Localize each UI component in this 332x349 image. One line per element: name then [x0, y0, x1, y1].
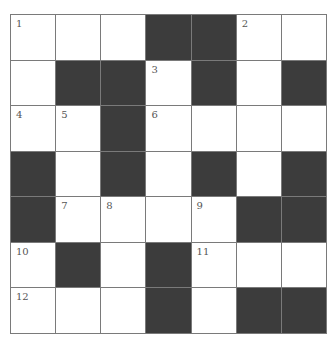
- crossword-cell[interactable]: 7: [56, 197, 100, 242]
- clue-number: 4: [16, 110, 22, 120]
- crossword-cell[interactable]: 8: [101, 197, 145, 242]
- crossword-cell[interactable]: 1: [11, 15, 55, 60]
- clue-number: 10: [16, 247, 29, 257]
- black-square: [192, 152, 236, 197]
- crossword-cell[interactable]: [56, 152, 100, 197]
- crossword-grid: 123456789101112: [10, 14, 327, 334]
- black-square: [192, 61, 236, 106]
- black-square: [282, 152, 326, 197]
- crossword-cell[interactable]: 4: [11, 106, 55, 151]
- crossword-cell[interactable]: [282, 243, 326, 288]
- crossword-cell[interactable]: [237, 61, 281, 106]
- black-square: [101, 61, 145, 106]
- crossword-cell[interactable]: [146, 197, 190, 242]
- crossword-cell[interactable]: [146, 152, 190, 197]
- crossword-cell[interactable]: 5: [56, 106, 100, 151]
- black-square: [101, 152, 145, 197]
- crossword-cell[interactable]: [101, 288, 145, 333]
- black-square: [282, 288, 326, 333]
- crossword-cell[interactable]: 12: [11, 288, 55, 333]
- clue-number: 11: [197, 247, 210, 257]
- crossword-cell[interactable]: 11: [192, 243, 236, 288]
- crossword-cell[interactable]: 10: [11, 243, 55, 288]
- clue-number: 3: [151, 65, 157, 75]
- clue-number: 7: [61, 201, 67, 211]
- crossword-cell[interactable]: 2: [237, 15, 281, 60]
- crossword-cell[interactable]: [282, 106, 326, 151]
- crossword-cell[interactable]: 9: [192, 197, 236, 242]
- black-square: [56, 61, 100, 106]
- crossword-cell[interactable]: [192, 288, 236, 333]
- black-square: [11, 197, 55, 242]
- crossword-cell[interactable]: 6: [146, 106, 190, 151]
- crossword-cell[interactable]: [192, 106, 236, 151]
- black-square: [282, 197, 326, 242]
- black-square: [146, 243, 190, 288]
- black-square: [146, 288, 190, 333]
- crossword-cell[interactable]: [237, 152, 281, 197]
- crossword-cell[interactable]: [101, 243, 145, 288]
- clue-number: 9: [197, 201, 203, 211]
- black-square: [237, 197, 281, 242]
- crossword-cell[interactable]: [56, 288, 100, 333]
- clue-number: 2: [242, 19, 248, 29]
- clue-number: 1: [16, 19, 22, 29]
- black-square: [11, 152, 55, 197]
- crossword-cell[interactable]: [282, 15, 326, 60]
- black-square: [237, 288, 281, 333]
- crossword-cell[interactable]: [11, 61, 55, 106]
- crossword-cell[interactable]: [237, 243, 281, 288]
- black-square: [146, 15, 190, 60]
- crossword-cell[interactable]: [237, 106, 281, 151]
- clue-number: 12: [16, 292, 29, 302]
- clue-number: 8: [106, 201, 112, 211]
- clue-number: 5: [61, 110, 67, 120]
- black-square: [192, 15, 236, 60]
- crossword-cell[interactable]: 3: [146, 61, 190, 106]
- black-square: [56, 243, 100, 288]
- crossword-cell[interactable]: [101, 15, 145, 60]
- black-square: [282, 61, 326, 106]
- crossword-cell[interactable]: [56, 15, 100, 60]
- black-square: [101, 106, 145, 151]
- clue-number: 6: [151, 110, 157, 120]
